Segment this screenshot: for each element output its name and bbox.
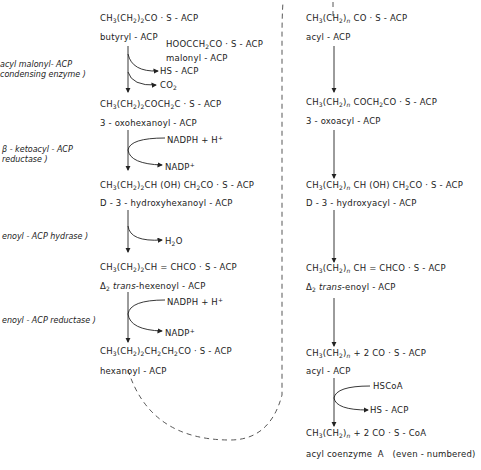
acyl-acp-formula: CH3(CH2)n CO · S - ACP	[306, 13, 407, 26]
enzyme-hydrase-label: enoyl - ACP hydrase )	[2, 232, 88, 242]
hexanoyl-acp-name: hexanoyl - ACP	[100, 366, 167, 376]
hydroxyhexanoyl-acp-name: D - 3 - hydroxyhexanoyl - ACP	[100, 198, 233, 208]
acyl-acp-name: acyl - ACP	[306, 32, 350, 42]
butyryl-acp-formula: CH3(CH2)2CO · S - ACP	[100, 13, 198, 26]
acyl-acp-2-name: acyl - ACP	[306, 366, 350, 376]
h2o-product: H2O	[165, 236, 183, 249]
enoyl-acp-formula: CH3(CH2)n CH = CHCO · S - ACP	[306, 263, 446, 276]
enzyme-condensing-label-1: acyl malonyl- ACP	[0, 60, 72, 70]
hexenoyl-acp-formula: CH3(CH2)2CH = CHCO · S - ACP	[100, 262, 237, 275]
hscoa-reactant: HSCoA	[373, 381, 403, 391]
malonyl-acp-name: malonyl - ACP	[166, 53, 228, 63]
enzyme-ketoreductase-label-2: reductase )	[2, 155, 48, 165]
co2-product: CO2	[160, 80, 177, 93]
butyryl-acp-name: butyryl - ACP	[100, 32, 158, 42]
oxohexanoyl-acp-name: 3 - oxohexanoyl - ACP	[100, 118, 197, 128]
acyl-coa-formula: CH3(CH2)n + 2 CO · S - CoA	[306, 428, 426, 441]
hs-acp-product-right: HS - ACP	[370, 405, 409, 415]
hexenoyl-acp-name: Δ2 trans-hexenoyl - ACP	[100, 281, 206, 294]
nadph-reactant-2: NADPH + H+	[167, 295, 223, 307]
hs-acp-product: HS - ACP	[160, 66, 199, 76]
nadph-reactant-1: NADPH + H+	[167, 133, 223, 145]
enzyme-enoyl-reductase-label: enoyl - ACP reductase )	[2, 316, 96, 326]
hydroxyacyl-acp-name: D - 3 - hydroxyacyl - ACP	[306, 198, 417, 208]
hydroxyacyl-acp-formula: CH3(CH2)n CH (OH) CH2CO · S - ACP	[306, 180, 463, 193]
hydroxyhexanoyl-acp-formula: CH3(CH2)2CH (OH) CH2CO · S - ACP	[100, 180, 254, 193]
enzyme-ketoreductase-label-1: β - ketoacyl - ACP	[2, 145, 73, 155]
enzyme-condensing-label-2: condensing enzyme )	[0, 70, 86, 80]
oxoacyl-acp-formula: CH3(CH2)n COCH2CO · S - ACP	[306, 97, 437, 110]
oxoacyl-acp-name: 3 - oxoacyl - ACP	[306, 116, 381, 126]
malonyl-acp-formula: HOOCCH2CO · S - ACP	[166, 39, 263, 52]
enoyl-acp-name: Δ2 trans-enoyl - ACP	[306, 282, 396, 295]
hexanoyl-acp-formula: CH3(CH2)2CH2CH2CO · S - ACP	[100, 346, 232, 359]
nadp-product-1: NADP+	[165, 160, 195, 172]
acyl-coa-name: acyl coenzyme A (even - numbered)	[306, 449, 476, 459]
oxohexanoyl-acp-formula: CH3(CH2)2COCH2C · S - ACP	[100, 99, 221, 112]
nadp-product-2: NADP+	[165, 326, 195, 338]
acyl-acp-2-formula: CH3(CH2)n + 2 CO · S - ACP	[306, 348, 426, 361]
